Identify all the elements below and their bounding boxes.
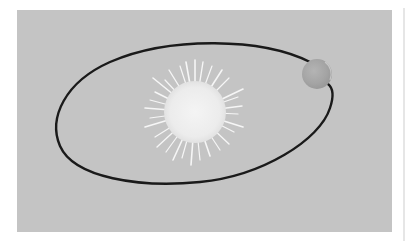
illustration-frame <box>0 0 408 241</box>
sun-icon <box>164 81 226 143</box>
orbit-scene <box>0 0 408 241</box>
